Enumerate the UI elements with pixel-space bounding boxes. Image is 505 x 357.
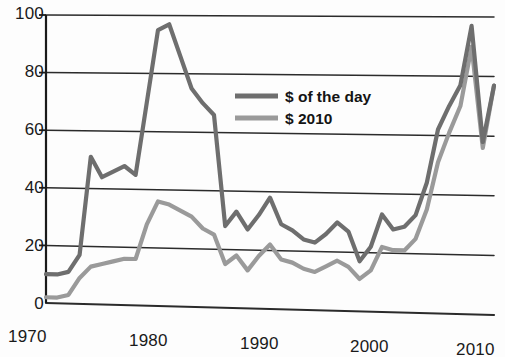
- chart-plot-area: [0, 0, 505, 357]
- gridline-60: [46, 130, 494, 136]
- x-tick-label-2010: 2010: [456, 340, 495, 357]
- y-tick-label-60: 60: [0, 120, 44, 140]
- gridlines-group: [46, 15, 494, 255]
- series-lines-group: [46, 24, 494, 297]
- legend-label-real: $ 2010: [285, 110, 332, 128]
- axes-group: [39, 15, 494, 315]
- y-tick-label-100: 100: [0, 4, 44, 24]
- gridline-100: [46, 15, 494, 17]
- legend-swatches-group: [235, 96, 278, 118]
- x-tick-label-2000: 2000: [350, 337, 389, 357]
- chart-container: 100 80 60 40 20 0 1970 1980 1990 2000 20…: [0, 0, 505, 357]
- y-tick-label-0: 0: [0, 294, 44, 314]
- y-tick-label-40: 40: [0, 178, 44, 198]
- x-tick-label-1990: 1990: [240, 334, 279, 354]
- y-tick-label-20: 20: [0, 236, 44, 256]
- gridline-0: [46, 303, 494, 315]
- legend-label-nominal: $ of the day: [285, 88, 371, 106]
- x-tick-label-1970: 1970: [8, 327, 47, 347]
- y-tick-label-80: 80: [0, 62, 44, 82]
- series-line-nominal: [46, 24, 494, 274]
- gridline-80: [46, 73, 494, 77]
- x-tick-label-1980: 1980: [129, 331, 168, 351]
